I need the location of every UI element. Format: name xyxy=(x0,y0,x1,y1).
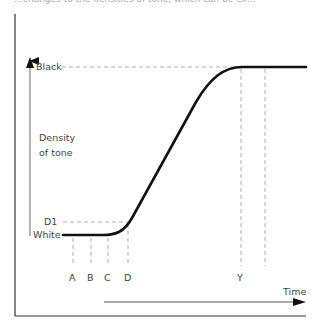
x-axis-label: Time xyxy=(282,286,306,297)
white-level-label: White xyxy=(33,229,61,240)
marker-d-label: D xyxy=(124,272,131,283)
y-axis-arrowhead-icon xyxy=(26,57,34,68)
marker-b-label: B xyxy=(87,272,94,283)
d1-level-label: D1 xyxy=(44,216,57,227)
y-axis-label-line2: of tone xyxy=(39,147,73,158)
y-axis-label-line1: Density xyxy=(39,132,75,143)
density-time-curve-diagram: Black Density of tone D1 White A B C D Y… xyxy=(0,0,313,327)
x-axis-arrowhead-icon xyxy=(293,298,306,306)
marker-y-label: Y xyxy=(236,272,243,283)
black-level-label: Black xyxy=(36,61,62,72)
marker-c-label: C xyxy=(104,272,111,283)
marker-a-label: A xyxy=(69,272,76,283)
density-curve xyxy=(63,67,306,235)
